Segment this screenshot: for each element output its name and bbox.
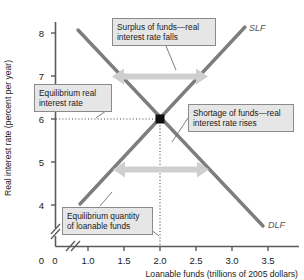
x-tick-label-0: 0 [52, 255, 57, 266]
surplus-leader-line [166, 46, 176, 70]
slf-curve-label: SLF [249, 23, 266, 33]
y-axis-title: Real interest rate (percent per year) [3, 60, 13, 196]
y-tick-label-5: 5 [39, 157, 44, 168]
x-tick-label-2-5: 2.5 [189, 255, 202, 266]
x-tick-label-1-5: 1.5 [117, 255, 130, 266]
x-axis-title: Loanable funds (trillions of 2005 dollar… [146, 269, 299, 279]
shortage-arrow [113, 162, 209, 178]
y-tick-label-6: 6 [39, 114, 44, 125]
callout-shortage: Shortage of funds—real interest rate ris… [188, 104, 294, 132]
x-tick-label-3-0: 3.0 [225, 255, 238, 266]
x-ticks-group: 0 1.0 1.5 2.0 2.5 3.0 3.5 [52, 246, 274, 266]
y-ticks-group: 8 7 6 5 4 0 [39, 28, 56, 267]
y-tick-label-7: 7 [39, 71, 44, 82]
equilibrium-quantity-leader-line [100, 192, 112, 206]
loanable-funds-market-chart: 8 7 6 5 4 0 0 1.0 1.5 2.0 2.5 3.0 3.5 Lo… [0, 0, 304, 280]
callout-equilibrium-quantity: Equilibrium quantity of loanable funds [62, 207, 153, 235]
x-tick-label-2-0: 2.0 [153, 255, 166, 266]
callout-surplus: Surplus of funds—real interest rate fall… [112, 18, 216, 46]
x-tick-label-3-5: 3.5 [261, 255, 274, 266]
x-tick-label-1-0: 1.0 [81, 255, 94, 266]
y-tick-label-0: 0 [39, 255, 44, 266]
dlf-curve-label: DLF [268, 220, 286, 230]
callout-equilibrium-rate: Equilibrium real interest rate [34, 84, 112, 112]
y-tick-label-8: 8 [39, 28, 44, 39]
equilibrium-point-marker [156, 115, 165, 124]
y-tick-label-4: 4 [39, 200, 44, 211]
